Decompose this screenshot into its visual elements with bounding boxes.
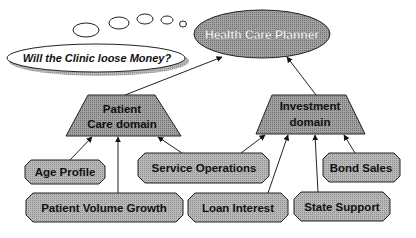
factor-bond-sales: Bond Sales — [323, 153, 400, 182]
investment-label-line1: Investment — [280, 100, 341, 112]
thought-label: Will the Clinic loose Money? — [23, 52, 172, 64]
patient-care-label-line1: Patient — [103, 103, 142, 115]
root-label: Health Care Planner — [205, 28, 319, 42]
patient-care-label-line2: Care domain — [87, 118, 157, 130]
thought-circle-1 — [73, 23, 99, 37]
domain-investment: Investment domain — [256, 95, 365, 134]
thought-circle-5 — [180, 21, 187, 27]
arrow-bond-to-investment — [344, 135, 355, 153]
arrow-investment-to-root — [287, 57, 316, 95]
factor-patient-volume-growth: Patient Volume Growth — [26, 193, 183, 222]
thought-circle-4 — [161, 16, 173, 24]
state-support-label: State Support — [304, 201, 380, 213]
bond-sales-label: Bond Sales — [330, 162, 393, 174]
factor-loan-interest: Loan Interest — [188, 193, 288, 222]
arrow-service-to-patient — [158, 137, 182, 153]
service-operations-label: Service Operations — [152, 162, 257, 174]
root-node: Health Care Planner — [194, 10, 330, 58]
domain-patient-care: Patient Care domain — [66, 95, 181, 136]
patient-volume-growth-label: Patient Volume Growth — [41, 202, 167, 214]
investment-label-line2: domain — [290, 116, 331, 128]
loan-interest-label: Loan Interest — [202, 202, 274, 214]
factor-age-profile: Age Profile — [25, 160, 105, 184]
arrow-age-to-patient — [70, 137, 92, 160]
thought-circle-2 — [109, 17, 129, 29]
thought-bubble: Will the Clinic loose Money? — [7, 14, 189, 76]
arrow-loan-to-investment — [268, 135, 288, 193]
health-care-planner-diagram: Will the Clinic loose Money? Health Care… — [0, 0, 416, 238]
age-profile-label: Age Profile — [35, 166, 96, 178]
factor-state-support: State Support — [294, 192, 390, 221]
arrow-service-to-investment — [241, 135, 265, 153]
factor-service-operations: Service Operations — [138, 153, 269, 183]
arrow-state-to-investment — [315, 135, 318, 192]
thought-circle-3 — [137, 14, 153, 24]
